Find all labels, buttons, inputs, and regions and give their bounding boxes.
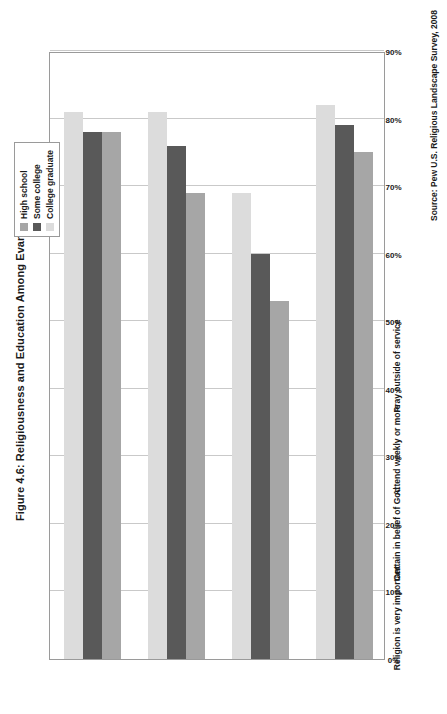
legend-label-high-school: High school [19, 170, 29, 219]
bar-row [354, 53, 373, 659]
plot-area [49, 52, 385, 660]
category-axis-labels: Religion is very importantCertain in bel… [392, 52, 416, 660]
category-label: Certain in belief of God [392, 487, 402, 581]
bar-group [134, 53, 218, 659]
bar[interactable] [270, 301, 289, 659]
legend-item: High school [19, 150, 29, 231]
bar-row [148, 53, 167, 659]
bar-group [218, 53, 302, 659]
bar[interactable] [148, 112, 167, 659]
bar-row [251, 53, 270, 659]
category-label: Attend weekly or more [392, 404, 402, 495]
bar[interactable] [354, 152, 373, 659]
bar-group [302, 53, 386, 659]
source-note: Source: Pew U.S. Religious Landscape Sur… [429, 10, 439, 714]
bar-row [102, 53, 121, 659]
legend-item: Some college [32, 150, 42, 231]
bar[interactable] [232, 193, 251, 659]
bar[interactable] [335, 125, 354, 659]
bar-row [186, 53, 205, 659]
bar[interactable] [102, 132, 121, 659]
legend-swatch-some-college [33, 223, 41, 231]
gridline [50, 50, 384, 51]
bar-row [83, 53, 102, 659]
category-label: Religion is very important [392, 566, 402, 670]
legend: High school Some college College graduat… [14, 142, 60, 237]
bar-row [316, 53, 335, 659]
legend-swatch-college-graduate [46, 223, 54, 231]
legend-label-some-college: Some college [32, 164, 42, 219]
bar[interactable] [64, 112, 83, 659]
bar[interactable] [83, 132, 102, 659]
legend-item: College graduate [45, 150, 55, 231]
bar-row [167, 53, 186, 659]
bar-groups [50, 53, 384, 659]
bar-group [50, 53, 134, 659]
figure-title: Figure 4.6: Religiousness and Education … [14, 0, 26, 714]
legend-label-college-graduate: College graduate [45, 150, 55, 219]
legend-swatch-high-school [20, 223, 28, 231]
bar-row [64, 53, 83, 659]
bar-row [335, 53, 354, 659]
bar-row [232, 53, 251, 659]
bar[interactable] [251, 254, 270, 659]
figure-canvas: Figure 4.6: Religiousness and Education … [0, 0, 447, 714]
bar[interactable] [167, 146, 186, 659]
category-label: Pray outside of service [392, 319, 402, 412]
bar[interactable] [316, 105, 335, 659]
bar-row [270, 53, 289, 659]
bar[interactable] [186, 193, 205, 659]
